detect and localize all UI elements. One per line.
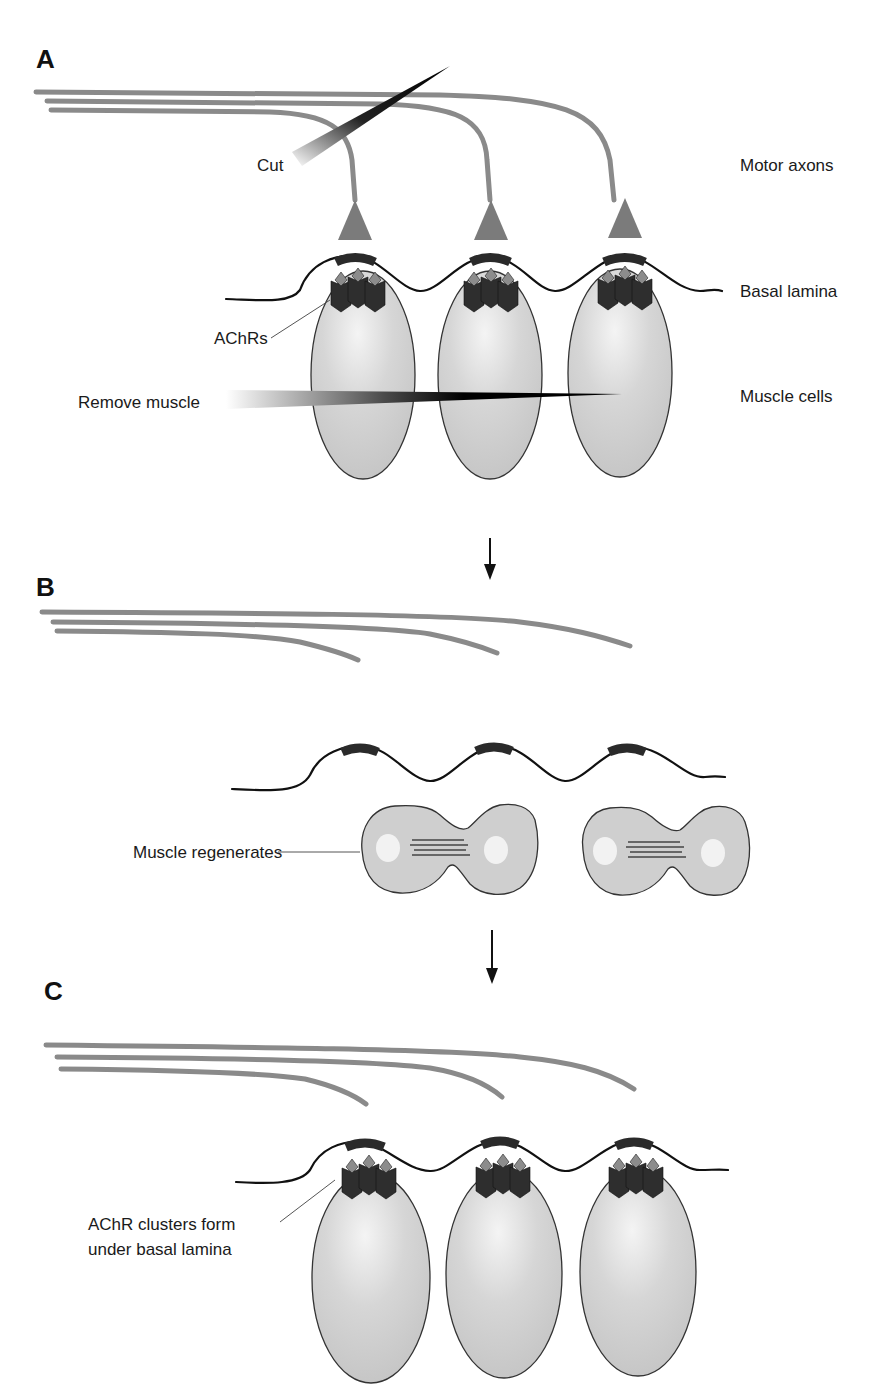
cut-label: Cut xyxy=(257,156,284,175)
regenerating-muscle-cell-2 xyxy=(582,806,749,895)
severed-axons-c xyxy=(46,1045,634,1104)
basal-lamina-label: Basal lamina xyxy=(740,282,838,301)
severed-axon-3 xyxy=(57,631,358,660)
nerve-terminal-2 xyxy=(474,200,508,240)
synaptic-patch-3 xyxy=(604,258,645,263)
achr-cluster-2 xyxy=(464,268,518,312)
muscle-cell-c1 xyxy=(312,1173,430,1383)
achrs-label: AChRs xyxy=(214,329,268,348)
muscle-regenerates-label: Muscle regenerates xyxy=(133,843,282,862)
remove-muscle-blade-icon xyxy=(226,390,622,409)
severed-axon-c1 xyxy=(46,1045,634,1089)
synaptic-patch-c3 xyxy=(616,1142,652,1146)
severed-axon-c3 xyxy=(61,1069,366,1104)
achr-cluster-1 xyxy=(331,268,385,312)
muscle-cell-c2 xyxy=(446,1170,562,1378)
synaptic-patch-b1 xyxy=(342,748,378,752)
motor-axons-label: Motor axons xyxy=(740,156,834,175)
down-arrow-icon xyxy=(486,930,498,984)
panel-letter-c: C xyxy=(44,976,63,1006)
muscle-cell-c3 xyxy=(580,1168,696,1376)
achr-clusters-label-line1: AChR clusters form xyxy=(88,1215,235,1234)
synaptic-patch-c1 xyxy=(346,1143,384,1147)
achr-cluster-c1 xyxy=(342,1155,396,1199)
severed-axons xyxy=(42,612,630,660)
panel-letter-b: B xyxy=(36,572,55,602)
neuromuscular-regeneration-diagram: A Cut Motor axons Basal lamina xyxy=(0,0,893,1388)
panel-c: C AChR clusters form under basal lamina xyxy=(44,976,728,1383)
remove-muscle-label: Remove muscle xyxy=(78,393,200,412)
achr-clusters-label-line2: under basal lamina xyxy=(88,1240,232,1259)
down-arrow-icon xyxy=(484,538,496,580)
panel-letter-a: A xyxy=(36,44,55,74)
achr-cluster-c2 xyxy=(476,1154,530,1198)
nerve-terminal-1 xyxy=(338,200,372,240)
synaptic-patch-2 xyxy=(471,258,510,263)
panel-a: A Cut Motor axons Basal lamina xyxy=(36,44,838,479)
achr-cluster-3 xyxy=(598,266,652,310)
axon-2 xyxy=(47,101,490,200)
synaptic-patch-1 xyxy=(336,258,375,263)
regenerating-muscle-cell-1 xyxy=(362,804,538,894)
panel-b: B Muscle xyxy=(36,572,750,895)
synaptic-patch-b3 xyxy=(609,748,645,752)
synaptic-patch-b2 xyxy=(476,747,512,751)
synaptic-patch-c2 xyxy=(482,1141,518,1145)
muscle-cells-label: Muscle cells xyxy=(740,387,833,406)
achr-cluster-c3 xyxy=(609,1154,663,1198)
nerve-terminal-3 xyxy=(608,198,642,238)
